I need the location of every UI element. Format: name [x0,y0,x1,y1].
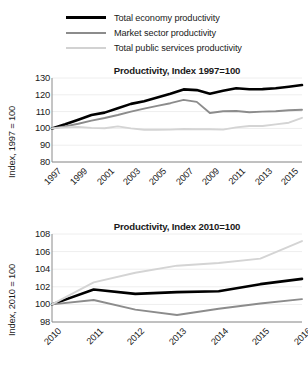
series-line-market-sector-productivity [52,100,302,129]
x-tick-label: 2013 [163,326,188,351]
x-tick-label: 2001 [90,166,115,191]
y-tick-label: 100 [24,300,50,309]
legend-item-public-services: Total public services productivity [66,40,306,55]
chart-index-1997: Productivity, Index 1997=100 Index, 1997… [0,60,308,215]
x-axis-ticks-1997: 1997199920012003200520072009201120132015 [52,164,302,204]
chart-page: Total economy productivity Market sector… [0,0,308,376]
plot-svg-1997 [52,78,302,162]
y-tick-label: 108 [24,229,50,238]
y-axis-title-1997: Index, 1997 = 100 [6,162,17,178]
x-axis-ticks-2010: 2010201120122013201420152016 [52,324,302,364]
legend-item-market-sector: Market sector productivity [66,25,306,40]
x-tick-label: 2011 [222,166,247,191]
x-tick-label: 2011 [79,326,104,351]
x-tick-label: 2013 [248,166,273,191]
y-tick-label: 104 [24,264,50,273]
x-tick-label: 1999 [64,166,89,191]
x-tick-label: 2016 [288,326,308,351]
x-tick-label: 2015 [246,326,271,351]
y-tick-label: 90 [24,140,50,149]
x-tick-label: 2009 [196,166,221,191]
legend-label-public-services: Total public services productivity [114,43,242,53]
legend-label-market-sector: Market sector productivity [114,28,216,38]
x-tick-label: 2012 [121,326,146,351]
x-tick-label: 2014 [204,326,229,351]
plot-area-1997 [52,78,302,162]
plot-svg-2010 [52,234,302,322]
x-tick-label: 1997 [38,166,63,191]
y-axis-ticks-1997: 1301201101009080 [20,78,50,162]
y-tick-label: 100 [24,124,50,133]
series-line-market-sector-productivity [52,299,302,315]
x-tick-label: 2003 [117,166,142,191]
y-axis-title-2010: Index, 2010 = 100 [6,320,17,336]
y-tick-label: 106 [24,247,50,256]
legend-swatch-icon-total-economy [66,16,106,19]
x-tick-label: 2007 [169,166,194,191]
x-tick-label: 2010 [38,326,63,351]
y-tick-label: 120 [24,90,50,99]
y-tick-label: 130 [24,73,50,82]
plot-area-2010 [52,234,302,322]
x-tick-label: 2005 [143,166,168,191]
y-tick-label: 98 [24,317,50,326]
chart-title-1997: Productivity, Index 1997=100 [52,65,302,76]
x-tick-label: 2015 [274,166,299,191]
y-axis-ticks-2010: 10810610410210098 [20,234,50,322]
y-tick-label: 102 [24,282,50,291]
legend-swatch-icon-public-services [66,47,106,49]
chart-legend: Total economy productivity Market sector… [66,10,306,55]
legend-item-total-economy: Total economy productivity [66,10,306,25]
legend-swatch-icon-market-sector [66,32,106,34]
series-line-total-public-services-productivity [52,241,302,304]
chart-title-2010: Productivity, Index 2010=100 [52,221,302,232]
legend-label-total-economy: Total economy productivity [114,13,220,23]
y-tick-label: 110 [24,107,50,116]
chart-index-2010: Productivity, Index 2010=100 Index, 2010… [0,216,308,376]
y-tick-label: 80 [24,157,50,166]
